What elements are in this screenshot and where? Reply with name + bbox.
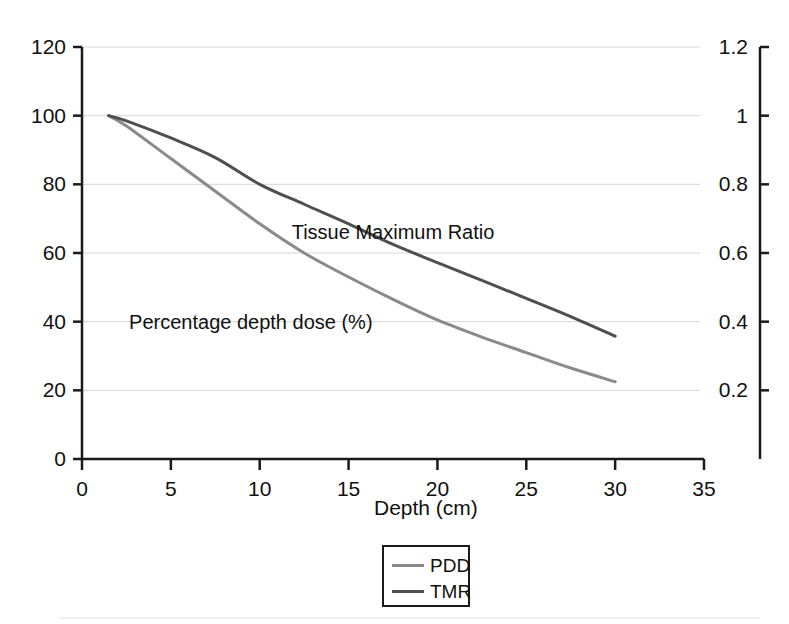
y-axis-left-tick-label: 40 [0,311,66,332]
x-axis-tick-label: 30 [585,478,645,499]
y-axis-right-tick-label: 1 [690,105,748,126]
y-axis-left-tick-label: 100 [0,105,66,126]
legend-label-pdd: PDD [430,556,470,575]
y-axis-right-tick-label: 0.6 [690,242,748,263]
chart-page: 120100806040200 1.210.80.60.40.2 0510152… [0,0,789,624]
y-axis-left-tick-label: 120 [0,36,66,57]
curve-annotation: Percentage depth dose (%) [129,312,373,332]
y-axis-right-tick-label: 0.4 [690,311,748,332]
x-axis-tick-label: 35 [674,478,734,499]
x-axis-tick-label: 25 [496,478,556,499]
axes-group [73,47,769,470]
legend-item-tmr[interactable]: TMR [392,579,468,603]
gridlines-group [82,47,700,390]
data-series-group [109,116,615,382]
series-line-pdd [109,116,615,382]
x-axis-tick-label: 0 [52,478,112,499]
y-axis-right-tick-label: 1.2 [690,36,748,57]
x-axis-tick-label: 15 [319,478,379,499]
chart-legend[interactable]: PDD TMR [382,545,470,607]
y-axis-left-tick-label: 20 [0,379,66,400]
y-axis-left-tick-label: 60 [0,242,66,263]
legend-item-pdd[interactable]: PDD [392,553,468,577]
y-axis-right-tick-label: 0.8 [690,173,748,194]
y-axis-left-tick-label: 0 [0,448,66,469]
chart-canvas [0,0,789,624]
y-axis-left-tick-label: 80 [0,173,66,194]
page-edge-artifact [60,617,760,619]
x-axis-tick-label: 5 [141,478,201,499]
legend-swatch-pdd [392,564,424,567]
y-axis-right-tick-label: 0.2 [690,379,748,400]
curve-annotation: Tissue Maximum Ratio [292,222,495,242]
legend-swatch-tmr [392,590,424,593]
x-axis-tick-label: 10 [230,478,290,499]
legend-label-tmr: TMR [430,582,471,601]
x-axis-title: Depth (cm) [374,497,478,518]
